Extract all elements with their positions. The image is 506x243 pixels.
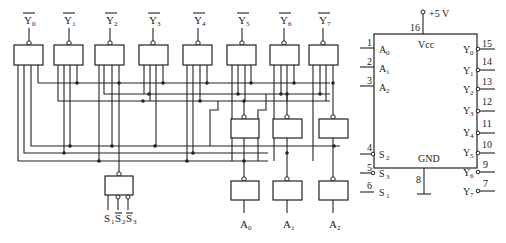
svg-text:3: 3 xyxy=(133,218,137,226)
svg-text:Y: Y xyxy=(238,14,246,26)
nand-gate-y7 xyxy=(309,28,338,65)
svg-text:A: A xyxy=(283,218,291,230)
supply-label: +5 V xyxy=(429,8,450,19)
svg-text:12: 12 xyxy=(482,96,492,107)
svg-text:4: 4 xyxy=(202,20,206,28)
svg-text:S: S xyxy=(115,212,121,224)
svg-text:0: 0 xyxy=(248,224,252,232)
svg-text:Y: Y xyxy=(280,14,288,26)
nand-gate-y0 xyxy=(14,28,43,65)
svg-text:A: A xyxy=(329,218,337,230)
svg-text:5: 5 xyxy=(367,162,372,173)
inverter-a2 xyxy=(319,115,348,138)
svg-text:4: 4 xyxy=(367,142,372,153)
chip-74ls138: +5 V 16 Vcc GND 8 1 A0 2 A1 3 A2 4 S2 5 … xyxy=(360,8,495,200)
buffer-a2: A2 xyxy=(319,177,348,232)
nand-gate-y6 xyxy=(270,28,299,65)
svg-text:S: S xyxy=(126,212,132,224)
svg-text:14: 14 xyxy=(482,56,492,67)
output-label-y2: Y2 xyxy=(105,13,118,28)
nand-gate-y1 xyxy=(54,28,83,65)
svg-text:1: 1 xyxy=(386,68,390,76)
svg-text:0: 0 xyxy=(470,49,474,57)
svg-text:Y: Y xyxy=(149,14,157,26)
svg-text:0: 0 xyxy=(32,20,36,28)
svg-text:1: 1 xyxy=(291,224,295,232)
svg-text:GND: GND xyxy=(418,153,440,164)
svg-text:8: 8 xyxy=(416,174,421,185)
svg-text:2: 2 xyxy=(386,154,390,162)
buffer-a0: A0 xyxy=(231,177,259,232)
svg-text:7: 7 xyxy=(470,191,474,199)
svg-text:Y: Y xyxy=(24,14,32,26)
decoder-diagram: Y0 Y1 Y2 Y3 Y4 Y5 Y6 Y7 xyxy=(0,0,506,243)
svg-text:6: 6 xyxy=(470,172,474,180)
buffer-a1: A1 xyxy=(273,177,302,232)
svg-text:S: S xyxy=(104,212,110,224)
svg-text:3: 3 xyxy=(367,75,372,86)
output-label-y1: Y1 xyxy=(63,13,76,28)
svg-text:9: 9 xyxy=(483,159,488,170)
svg-text:13: 13 xyxy=(482,76,492,87)
svg-text:Vcc: Vcc xyxy=(418,39,435,50)
nand-gate-y4 xyxy=(183,28,212,65)
svg-text:5: 5 xyxy=(470,152,474,160)
address-inverters xyxy=(231,115,348,138)
svg-text:7: 7 xyxy=(483,178,488,189)
output-label-y3: Y3 xyxy=(148,13,161,28)
svg-text:6: 6 xyxy=(288,20,292,28)
svg-text:S: S xyxy=(379,187,385,198)
output-label-y5: Y5 xyxy=(237,13,250,28)
svg-text:1: 1 xyxy=(470,70,474,78)
nand-gate-y2 xyxy=(95,28,124,65)
inverter-a0 xyxy=(231,115,259,138)
svg-text:10: 10 xyxy=(482,139,492,150)
svg-text:11: 11 xyxy=(482,118,492,129)
svg-text:15: 15 xyxy=(482,38,492,49)
svg-text:5: 5 xyxy=(246,20,250,28)
svg-text:3: 3 xyxy=(157,20,161,28)
nand-gate-y5 xyxy=(227,28,256,65)
svg-text:0: 0 xyxy=(386,49,390,57)
svg-text:3: 3 xyxy=(470,110,474,118)
svg-text:Y: Y xyxy=(194,14,202,26)
svg-text:Y: Y xyxy=(64,14,72,26)
output-label-y0: Y0 xyxy=(23,13,36,28)
output-label-y6: Y6 xyxy=(279,13,292,28)
svg-text:2: 2 xyxy=(337,224,341,232)
svg-text:2: 2 xyxy=(114,20,118,28)
address-buffers: A0 A1 A2 xyxy=(231,177,348,232)
svg-text:2: 2 xyxy=(470,89,474,97)
output-labels: Y0 Y1 Y2 Y3 Y4 Y5 Y6 Y7 xyxy=(23,13,331,28)
svg-text:1: 1 xyxy=(72,20,76,28)
output-gates xyxy=(14,28,338,65)
svg-text:S: S xyxy=(379,168,385,179)
svg-text:Y: Y xyxy=(319,14,327,26)
output-label-y4: Y4 xyxy=(193,13,206,28)
svg-text:4: 4 xyxy=(470,132,474,140)
svg-text:2: 2 xyxy=(367,56,372,67)
svg-text:1: 1 xyxy=(367,37,372,48)
svg-text:Y: Y xyxy=(106,14,114,26)
svg-text:S: S xyxy=(379,149,385,160)
nand-gate-y3 xyxy=(139,28,168,65)
svg-text:7: 7 xyxy=(327,20,331,28)
svg-text:6: 6 xyxy=(367,180,372,191)
inverter-a1 xyxy=(273,115,302,138)
svg-text:1: 1 xyxy=(386,192,390,200)
enable-gate: S1 S2 S3 xyxy=(104,172,137,226)
output-label-y7: Y7 xyxy=(318,13,331,28)
svg-text:3: 3 xyxy=(386,173,390,181)
svg-text:A: A xyxy=(240,218,248,230)
svg-text:2: 2 xyxy=(386,87,390,95)
svg-text:16: 16 xyxy=(410,22,420,33)
